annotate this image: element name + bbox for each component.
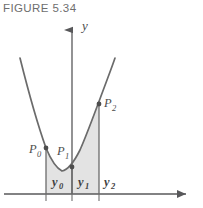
ordinate-label-y0-base: y [50, 175, 58, 189]
ordinate-label-y1-subscript: 1 [85, 181, 89, 191]
ordinate-label-y2: y 2 [102, 175, 116, 191]
marker-P2 [97, 102, 102, 107]
point-label-P1: P 1 [56, 144, 69, 161]
point-label-P0-base: P [28, 142, 37, 156]
point-label-P0-subscript: 0 [37, 149, 42, 159]
ordinate-label-y2-base: y [102, 175, 110, 189]
figure-container: FIGURE 5.34 y [0, 0, 203, 208]
y-axis-label: y [80, 18, 88, 33]
point-label-P2: P 2 [103, 96, 117, 113]
marker-P1 [70, 165, 75, 170]
point-label-P2-subscript: 2 [112, 103, 117, 113]
point-label-P0: P 0 [28, 142, 42, 159]
point-label-P1-base: P [56, 144, 65, 158]
point-label-P1-subscript: 1 [65, 151, 69, 161]
point-label-P2-base: P [103, 96, 112, 110]
marker-P0 [44, 146, 49, 151]
ordinate-label-y2-subscript: 2 [110, 181, 116, 191]
ordinate-label-y1-base: y [76, 175, 84, 189]
figure-plot: y P 0 P 1 P 2 y 0 [0, 0, 203, 208]
